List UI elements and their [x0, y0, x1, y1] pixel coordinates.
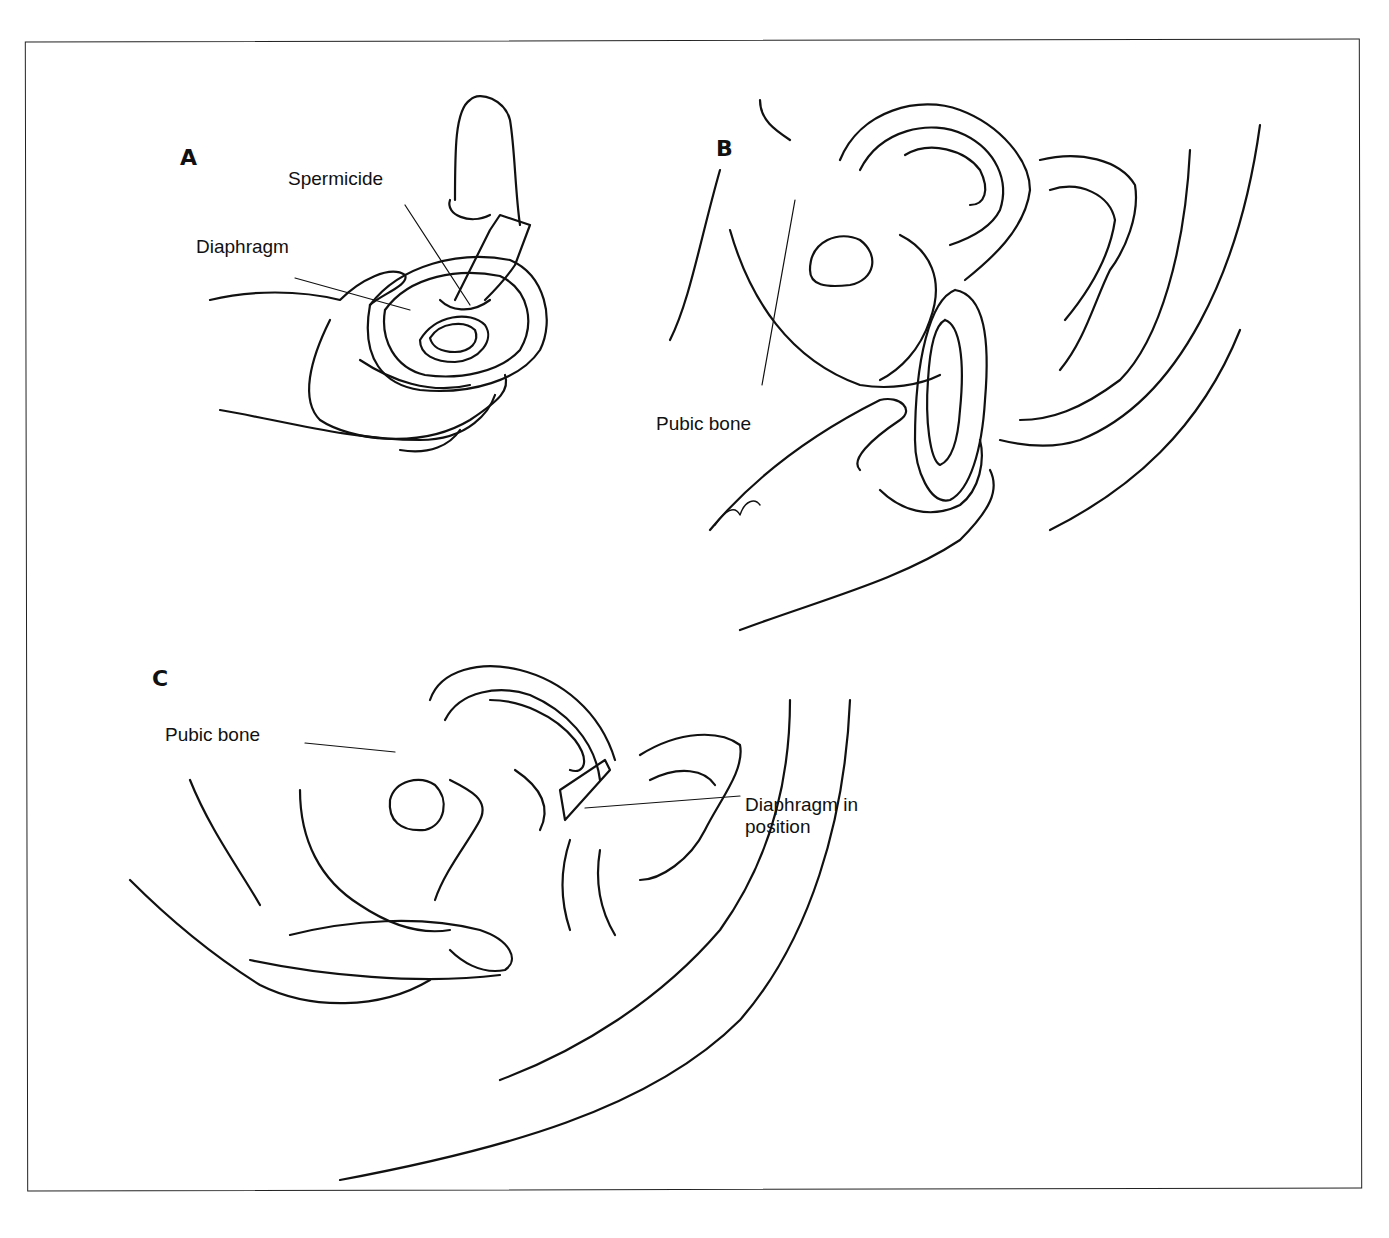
- panel-b-letter: B: [716, 136, 733, 161]
- panel-c-letter: C: [152, 666, 168, 691]
- panel-a-drawing: [210, 96, 547, 451]
- label-diaphragm-in-position-line1: Diaphragm in: [745, 794, 858, 815]
- label-diaphragm: Diaphragm: [196, 236, 289, 257]
- label-spermicide: Spermicide: [288, 168, 383, 189]
- label-pubic-bone-c: Pubic bone: [165, 724, 260, 745]
- label-pubic-bone-b: Pubic bone: [656, 413, 751, 434]
- illustration: [0, 0, 1389, 1238]
- panel-b-drawing: [670, 100, 1260, 630]
- panel-a-letter: A: [180, 145, 197, 170]
- label-diaphragm-in-position-line2: position: [745, 816, 811, 837]
